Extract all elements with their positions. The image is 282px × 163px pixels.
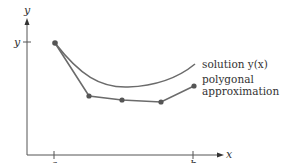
polygonal-label-line2: approximation: [202, 85, 279, 97]
solution-curve: [55, 43, 195, 87]
polygon-point: [158, 99, 163, 104]
x-axis-label: x: [226, 148, 233, 161]
polygon-point: [86, 93, 91, 98]
y-tick-label: y: [13, 36, 21, 49]
polygon-point: [191, 83, 196, 88]
x-tick-a-label: a: [51, 158, 58, 163]
polygonal-approximation-diagram: y y x a b solution y(x) polygonal approx…: [0, 0, 282, 163]
polygon-point: [119, 97, 124, 102]
x-tick-b-label: b: [190, 158, 197, 163]
x-axis-arrow-icon: [217, 153, 224, 158]
y-axis-arrow-icon: [25, 18, 30, 25]
polygonal-label-line1: polygonal: [202, 73, 254, 85]
polygonal-line: [55, 43, 194, 102]
polygon-point: [52, 40, 58, 46]
solution-label: solution y(x): [202, 58, 268, 70]
y-axis-label: y: [23, 4, 31, 17]
